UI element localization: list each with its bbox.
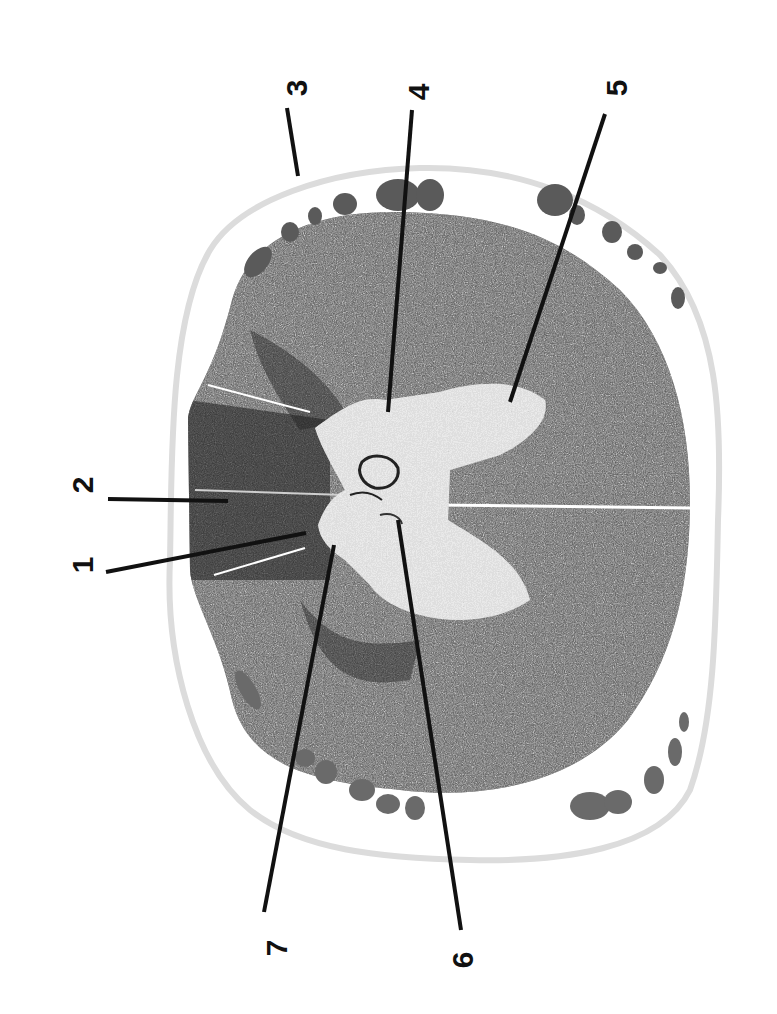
leader-line (108, 499, 228, 501)
callout-number: 5 (600, 80, 633, 97)
callout-number: 3 (280, 80, 313, 97)
callout-number: 2 (66, 477, 99, 494)
callout-3: 3 (280, 80, 313, 176)
callout-number: 7 (260, 940, 293, 957)
spinal-cord-cross-section-diagram: 1234567 (0, 0, 777, 1014)
callout-number: 6 (446, 952, 479, 969)
callout-number: 4 (402, 83, 435, 100)
leader-line (287, 108, 298, 176)
callout-number: 1 (66, 557, 99, 574)
